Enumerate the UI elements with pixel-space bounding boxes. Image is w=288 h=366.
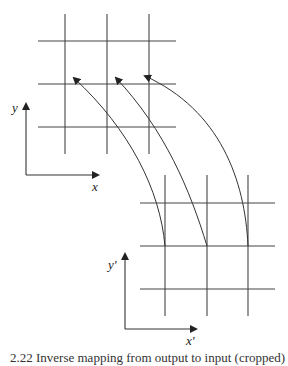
source-x-label: x [92, 180, 98, 193]
target-x-label: x' [186, 334, 195, 347]
target-axes [125, 254, 196, 329]
target-grid [140, 175, 275, 316]
source-grid [38, 14, 176, 154]
target-y-label: y' [108, 258, 117, 271]
figure-caption: 2.22 Inverse mapping from output to inpu… [10, 350, 285, 366]
source-axes [26, 104, 98, 175]
mapping-arrow-1 [74, 78, 165, 246]
mapping-arrows [74, 76, 248, 246]
source-y-label: y [12, 101, 18, 114]
mapping-arrow-3 [145, 76, 248, 246]
